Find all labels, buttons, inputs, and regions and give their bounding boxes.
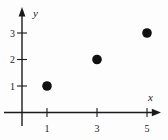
x-axis: x 135 — [4, 91, 161, 134]
data-points — [42, 28, 152, 91]
data-point — [42, 81, 52, 91]
y-axis-arrowhead-icon — [19, 7, 26, 17]
x-axis-arrowhead-icon — [152, 109, 161, 116]
scatter-plot: y 123 x 135 — [0, 0, 168, 140]
y-tick-label: 2 — [10, 54, 15, 65]
y-tick-label: 3 — [10, 28, 15, 39]
x-axis-label: x — [147, 91, 153, 103]
scatter-plot-figure: y 123 x 135 — [0, 0, 168, 140]
x-tick-label: 5 — [145, 123, 150, 134]
data-point — [92, 55, 102, 65]
x-tick-label: 1 — [45, 123, 50, 134]
y-axis: y 123 — [10, 7, 38, 126]
y-axis-ticks: 123 — [10, 28, 27, 92]
data-point — [142, 28, 152, 38]
y-axis-label: y — [32, 7, 38, 19]
y-tick-label: 1 — [10, 81, 15, 92]
x-tick-label: 3 — [95, 123, 100, 134]
